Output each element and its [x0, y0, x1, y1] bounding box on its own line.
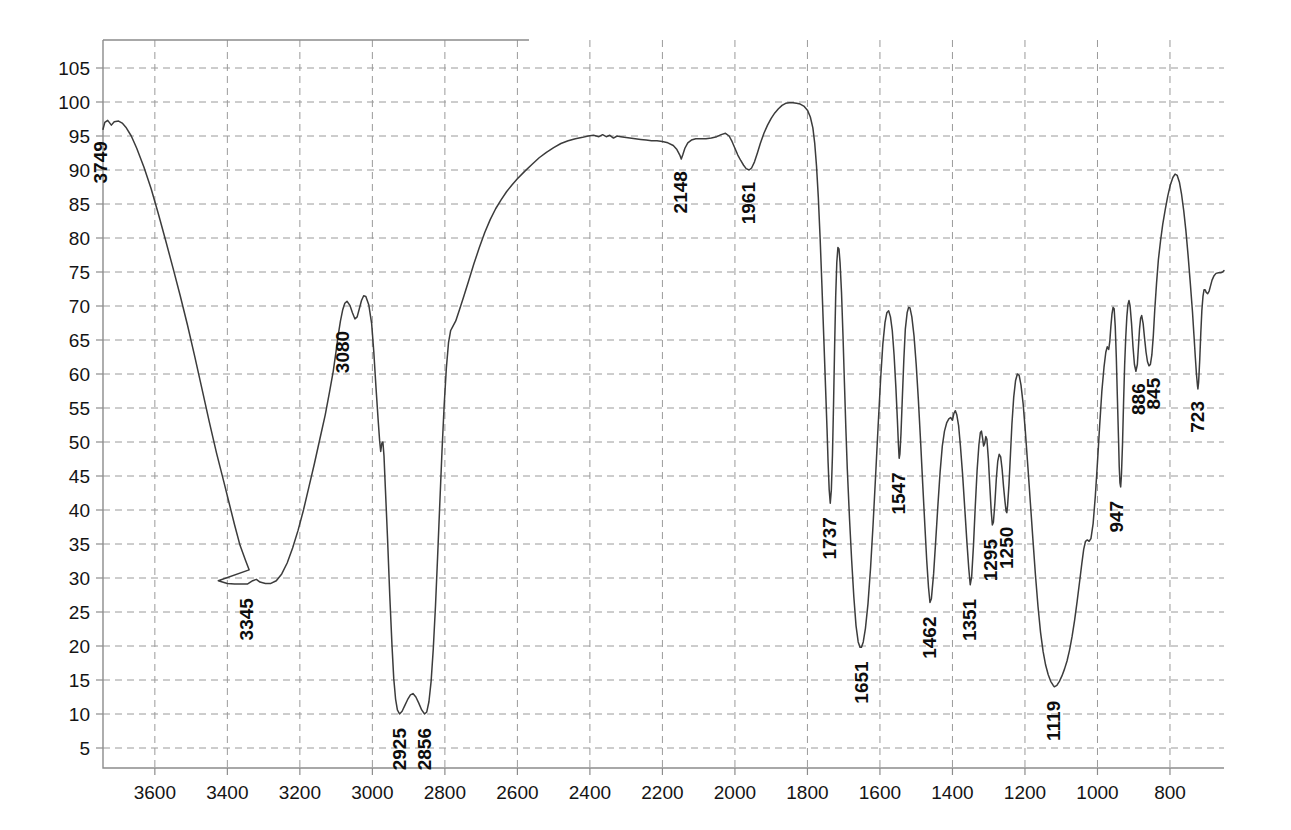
x-tick-label: 3000 [351, 782, 393, 803]
peak-label-3080: 3080 [332, 331, 353, 373]
x-tick-label: 2800 [424, 782, 466, 803]
y-tick-label: 35 [69, 534, 90, 555]
y-tick-label: 45 [69, 466, 90, 487]
y-tick-label: 100 [58, 92, 90, 113]
peak-label-text: 1462 [919, 617, 940, 659]
y-tick-label: 40 [69, 500, 90, 521]
peak-label-text: 1119 [1043, 701, 1064, 741]
y-tick-label: 80 [69, 228, 90, 249]
y-tick-label: 75 [69, 262, 90, 283]
peak-label-text: 947 [1106, 501, 1127, 533]
x-tick-label: 2400 [569, 782, 611, 803]
peak-label-text: 723 [1187, 401, 1208, 433]
y-tick-label: 5 [79, 738, 90, 759]
y-axis-tick-labels: 1051009590858075706560555045403530252015… [58, 58, 90, 759]
x-tick-label: 3600 [134, 782, 176, 803]
y-tick-label: 15 [69, 670, 90, 691]
x-tick-label: 2000 [714, 782, 756, 803]
peak-label-1351: 1351 [959, 598, 980, 641]
peak-label-1651: 1651 [851, 661, 872, 704]
x-tick-label: 1000 [1076, 782, 1118, 803]
plot-background [103, 40, 1224, 768]
peak-label-1547: 1547 [888, 472, 909, 514]
peak-label-1737: 1737 [819, 517, 840, 559]
y-tick-label: 55 [69, 398, 90, 419]
peak-label-3749: 3749 [90, 141, 111, 183]
x-tick-label: 3200 [279, 782, 321, 803]
y-tick-label: 65 [69, 330, 90, 351]
x-tick-label: 1800 [786, 782, 828, 803]
peak-label-3345: 3345 [236, 598, 257, 641]
peak-label-1119: 1119 [1043, 701, 1064, 741]
y-tick-label: 30 [69, 568, 90, 589]
x-tick-label: 3400 [206, 782, 248, 803]
peak-label-text: 1737 [819, 517, 840, 559]
y-tick-label: 20 [69, 636, 90, 657]
y-tick-label: 70 [69, 296, 90, 317]
peak-label-text: 1351 [959, 598, 980, 641]
y-tick-label: 50 [69, 432, 90, 453]
peak-label-1250: 1250 [996, 527, 1017, 569]
peak-label-947: 947 [1106, 501, 1127, 533]
y-tick-label: 60 [69, 364, 90, 385]
y-tick-label: 10 [69, 704, 90, 725]
peak-label-text: 3749 [90, 141, 111, 183]
peak-label-2856: 2856 [414, 728, 435, 770]
peak-label-text: 2856 [414, 728, 435, 770]
ir-spectrum-page: 1051009590858075706560555045403530252015… [0, 0, 1291, 830]
peak-label-text: 1547 [888, 472, 909, 514]
y-tick-label: 25 [69, 602, 90, 623]
peak-label-723: 723 [1187, 401, 1208, 433]
peak-label-1462: 1462 [919, 617, 940, 659]
x-tick-label: 1600 [859, 782, 901, 803]
peak-label-text: 3080 [332, 331, 353, 373]
peak-label-2925: 2925 [389, 728, 410, 771]
peak-label-text: 2925 [389, 728, 410, 771]
x-tick-label: 2200 [641, 782, 683, 803]
y-tick-label: 95 [69, 126, 90, 147]
x-axis-ticks [155, 768, 1170, 775]
ir-spectrum-chart: 1051009590858075706560555045403530252015… [0, 0, 1291, 830]
x-tick-label: 1400 [931, 782, 973, 803]
x-tick-label: 2600 [496, 782, 538, 803]
y-tick-label: 105 [58, 58, 90, 79]
x-axis-tick-labels: 3600340032003000280026002400220020001800… [134, 782, 1186, 803]
peak-label-text: 1961 [738, 182, 759, 225]
peak-label-845: 845 [1143, 377, 1164, 409]
y-tick-label: 90 [69, 160, 90, 181]
x-tick-label: 800 [1154, 782, 1186, 803]
peak-label-2148: 2148 [670, 171, 691, 213]
peak-label-text: 1651 [851, 661, 872, 704]
peak-label-1961: 1961 [738, 182, 759, 225]
peak-label-text: 1250 [996, 527, 1017, 569]
peak-label-text: 2148 [670, 171, 691, 213]
peak-label-text: 845 [1143, 377, 1164, 409]
x-tick-label: 1200 [1004, 782, 1046, 803]
y-tick-label: 85 [69, 194, 90, 215]
peak-label-text: 3345 [236, 598, 257, 641]
